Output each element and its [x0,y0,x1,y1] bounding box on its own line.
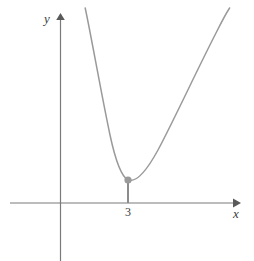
plot-canvas [0,0,254,261]
y-axis-label: y [44,12,50,25]
x-axis-label: x [233,207,239,220]
y-axis-arrow-icon [56,13,65,20]
parabola-figure: y x 3 [0,0,254,261]
parabola-curve [85,8,229,180]
vertex-point-marker [124,176,131,183]
x-tick-label-3: 3 [118,206,138,218]
